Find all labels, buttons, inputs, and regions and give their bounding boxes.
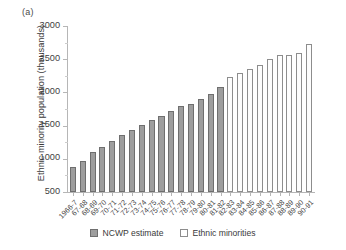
chart-legend: NCWP estimateEthnic minorities [0,228,346,238]
bar [158,116,164,192]
legend-label: NCWP estimate [102,228,163,238]
panel-label: (a) [22,7,34,17]
x-tick-mark [112,193,113,196]
y-tick-label: 500 [45,186,60,196]
legend-entry-ncwp-estimate: NCWP estimate [90,228,163,238]
bar [149,120,155,192]
x-tick-mark [93,193,94,196]
y-tick-label: 1500 [40,119,60,129]
y-minor-tick [65,76,68,77]
bar [90,152,96,192]
x-tick-mark [289,193,290,196]
y-minor-tick [65,175,68,176]
bar [208,94,214,192]
bar [267,59,273,192]
x-tick-mark [240,193,241,196]
x-tick-mark [299,193,300,196]
x-tick-mark [221,193,222,196]
x-tick-mark [83,193,84,196]
y-tick-mark [63,59,67,60]
x-tick-mark [250,193,251,196]
bar [188,104,194,192]
plot-area: 50010001500200025003000 1966-767-6868-69… [67,26,314,192]
bar [178,106,184,192]
bar [99,147,105,192]
x-tick-mark [309,193,310,196]
bar [237,73,243,192]
x-tick-mark [181,193,182,196]
x-tick-mark [201,193,202,196]
y-tick-mark [63,26,67,27]
y-minor-tick [65,43,68,44]
x-tick-mark [73,193,74,196]
chart-figure: (a) Ethnic minority population (thousand… [0,0,346,250]
bar [306,44,312,192]
y-tick-label: 2500 [40,53,60,63]
bar [168,111,174,192]
legend-label: Ethnic minorities [192,228,255,238]
x-tick-mark [171,193,172,196]
y-minor-tick [65,109,68,110]
legend-swatch-icon [90,229,98,237]
y-axis-label: Ethnic minority population (thousands) [36,18,46,188]
bar [129,130,135,192]
bar [198,99,204,192]
legend-entry-ethnic-minorities: Ethnic minorities [180,228,255,238]
x-tick-mark [142,193,143,196]
x-tick-mark [270,193,271,196]
bar [277,55,283,192]
y-tick-mark [63,92,67,93]
bar [247,69,253,192]
x-tick-mark [152,193,153,196]
bar [80,161,86,192]
bar [119,135,125,192]
x-tick-mark [132,193,133,196]
bar [139,125,145,192]
x-tick-mark [280,193,281,196]
y-tick-label: 1000 [40,152,60,162]
bar [70,167,76,192]
bar [257,65,263,192]
y-tick-label: 3000 [40,20,60,30]
bar [286,55,292,192]
x-tick-mark [260,193,261,196]
y-tick-label: 2000 [40,86,60,96]
y-minor-tick [65,142,68,143]
bar [227,77,233,192]
x-tick-mark [191,193,192,196]
y-tick-mark [63,126,67,127]
bar [217,87,223,192]
legend-swatch-icon [180,229,188,237]
x-tick-mark [161,193,162,196]
bar-series-group [68,26,314,192]
x-tick-mark [102,193,103,196]
x-tick-mark [122,193,123,196]
x-tick-mark [230,193,231,196]
x-tick-mark [211,193,212,196]
y-tick-mark [63,159,67,160]
bar [296,53,302,192]
y-tick-mark [63,192,67,193]
bar [109,141,115,192]
